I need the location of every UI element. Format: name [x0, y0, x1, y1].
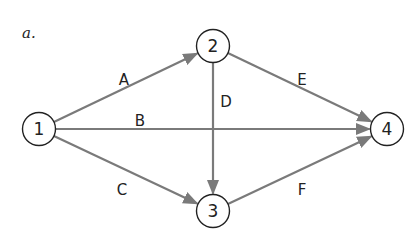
node-1: 1 — [23, 113, 56, 146]
edge-label-f: F — [298, 181, 307, 199]
node-label: 2 — [208, 36, 219, 56]
node-label: 3 — [208, 201, 219, 221]
edge-label-e: E — [297, 71, 306, 89]
edge-label-c: C — [117, 181, 127, 199]
node-2: 2 — [197, 30, 230, 63]
node-label: 1 — [34, 119, 45, 139]
node-3: 3 — [197, 195, 230, 228]
edge-label-b: B — [135, 112, 145, 130]
edge-label-d: D — [220, 93, 232, 111]
node-4: 4 — [371, 113, 404, 146]
network-diagram: ABCDEF 1234 — [0, 0, 414, 233]
edge-label-a: A — [119, 71, 130, 89]
node-label: 4 — [382, 119, 393, 139]
